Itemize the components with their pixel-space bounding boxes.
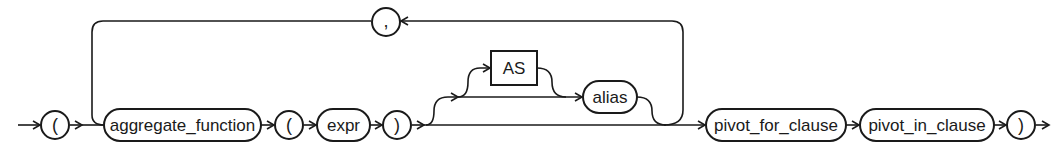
close-paren-final-node: ) (1007, 111, 1035, 139)
aggregate-function-node: aggregate_function (104, 109, 261, 141)
open-paren-2-node: ( (275, 111, 303, 139)
pivot-in-clause-node: pivot_in_clause (860, 109, 994, 141)
loop-back-line (401, 21, 683, 125)
comma-node: , (372, 8, 400, 36)
pivot-in-clause-label: pivot_in_clause (868, 116, 985, 135)
branch-line (426, 97, 458, 125)
expr-node: expr (317, 109, 370, 141)
open-paren-node: ( (41, 111, 69, 139)
branch-line (458, 68, 490, 97)
pivot-for-clause-label: pivot_for_clause (714, 116, 838, 135)
branch-line (637, 97, 666, 125)
as-keyword-node: AS (491, 51, 537, 85)
open-paren-label: ( (52, 115, 58, 135)
pivot-for-clause-node: pivot_for_clause (706, 109, 846, 141)
as-keyword-label: AS (503, 59, 526, 78)
branch-line (537, 68, 566, 97)
close-paren-final-label: ) (1018, 115, 1024, 135)
expr-label: expr (327, 116, 360, 135)
comma-label: , (383, 11, 388, 31)
alias-label: alias (593, 88, 628, 107)
alias-node: alias (583, 81, 637, 113)
close-paren-node: ) (383, 111, 411, 139)
open-paren-2-label: ( (286, 115, 292, 135)
syntax-diagram: ( aggregate_function ( expr ) AS alias ,… (0, 0, 1058, 163)
close-paren-label: ) (394, 115, 400, 135)
aggregate-function-label: aggregate_function (110, 116, 256, 135)
